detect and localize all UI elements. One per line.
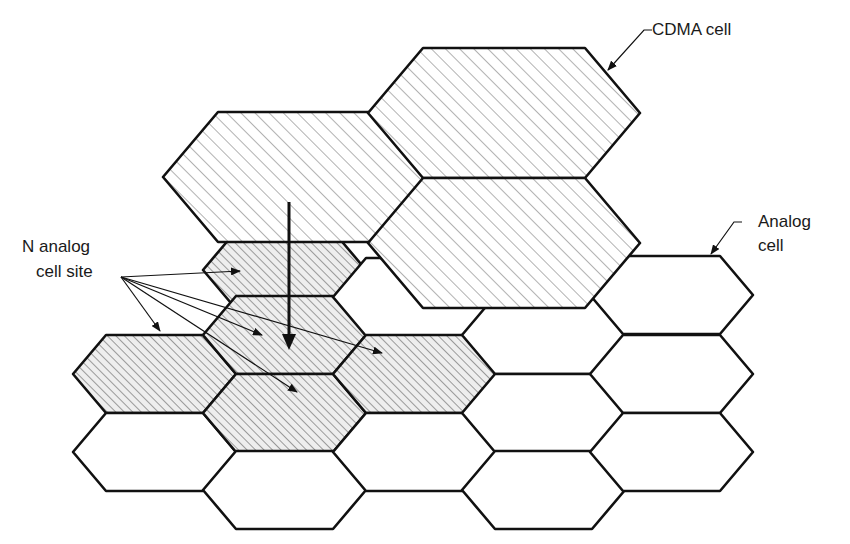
analog-cell [590, 413, 753, 491]
cdma-cell [368, 178, 640, 308]
analog-cell-label-line2: cell [758, 236, 784, 256]
n-analog-label-line1: N analog [22, 237, 90, 257]
cdma-cell [368, 48, 640, 178]
cdma-callout-arrow [608, 30, 652, 70]
analog-cell-label-line1: Analog [758, 212, 811, 232]
analog-callout-arrow [711, 222, 742, 254]
cell-overlay-diagram [0, 0, 850, 544]
analog-cell [590, 335, 753, 413]
n-analog-label-line2: cell site [36, 262, 93, 282]
cdma-cell-label: CDMA cell [652, 20, 731, 40]
